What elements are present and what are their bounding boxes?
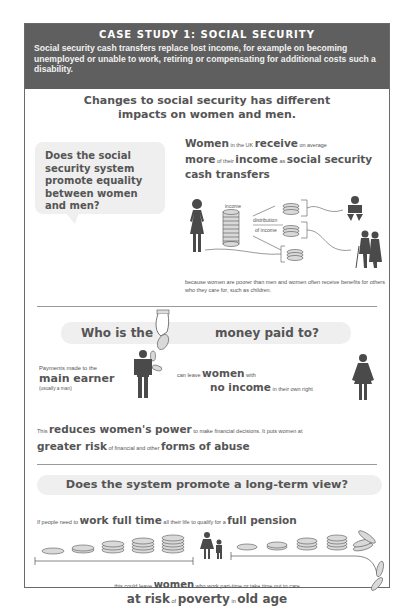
income-distribution-diagram: income distribution of income <box>185 194 385 278</box>
heading-part2: money paid to? <box>215 324 319 342</box>
coin-stacks-full-career <box>42 535 184 554</box>
case-study-description: Social security cash transfers replace l… <box>34 43 380 75</box>
reduces-power-text: This reduces women's power to make finan… <box>37 422 377 456</box>
svg-text:of income: of income <box>255 227 277 233</box>
section1-heading-line2: impacts on women and men. <box>25 108 389 122</box>
work-full-time-text: If people need to work full time all the… <box>37 514 382 526</box>
case-study-title: CASE STUDY 1: SOCIAL SECURITY <box>34 29 380 40</box>
text: to make financial decisions. It puts wom… <box>192 428 303 434</box>
text: this could leave <box>114 583 153 589</box>
woman-icon <box>190 199 204 252</box>
income-claim: Women in the UK receive on average more … <box>185 137 385 182</box>
section-divider <box>37 464 377 465</box>
work-full-time: work full time <box>80 514 162 526</box>
case-study-header: CASE STUDY 1: SOCIAL SECURITY Social sec… <box>25 24 389 89</box>
women-word: women <box>154 579 194 590</box>
women-word: women <box>202 367 244 379</box>
main-earner: main earner <box>39 372 114 385</box>
elderly-couple-icon <box>356 231 382 269</box>
text: who work part-time or take time out to c… <box>194 583 300 589</box>
full-pension: full pension <box>227 514 297 526</box>
claim-text: on average <box>298 142 327 148</box>
heading-part1: Who is the <box>81 324 153 342</box>
figure-caption-clipped <box>0 600 408 606</box>
coin-stacks <box>283 204 303 261</box>
case-study-panel: CASE STUDY 1: SOCIAL SECURITY Social sec… <box>24 23 390 588</box>
section1-heading: Changes to social security has different… <box>25 94 389 122</box>
claim-text: as <box>278 158 287 164</box>
claim-receive: receive <box>255 137 298 149</box>
leave-women-text: can leave women with <box>177 367 256 379</box>
own-right-text: in their own right <box>271 386 313 392</box>
claim-text: in the UK <box>229 142 255 148</box>
text: This <box>37 428 49 434</box>
svg-text:distribution: distribution <box>253 217 277 223</box>
leave-text: can leave <box>177 372 202 378</box>
section1-heading-line1: Changes to social security has different <box>25 94 389 108</box>
forms-of-abuse: forms of abuse <box>161 440 250 452</box>
claim-women: Women <box>185 137 229 149</box>
text: of financial and other <box>107 445 161 451</box>
section-divider <box>37 306 377 307</box>
income-caption: because women are poorer than men and wo… <box>185 278 385 294</box>
question-bubble: Does the social security system promote … <box>35 142 165 214</box>
woman-icon <box>351 354 375 400</box>
text: If people need to <box>37 519 80 525</box>
reduces-power: reduces women's power <box>49 423 192 435</box>
main-earner-note: (usually a man) <box>39 386 72 391</box>
part-time-text: this could leave women who work part-tim… <box>25 579 389 590</box>
greater-risk: greater risk <box>37 440 107 452</box>
baby-icon <box>347 196 363 221</box>
mother-and-child-icon <box>200 532 222 559</box>
no-income-text: no income in their own right <box>210 381 313 393</box>
man-icon <box>133 350 153 398</box>
with-text: with <box>245 372 256 378</box>
claim-income: income <box>235 153 278 165</box>
coin-stack-icon <box>223 210 239 247</box>
claim-more: more <box>185 153 215 165</box>
no-income-word: no income <box>210 381 271 393</box>
income-label: income <box>225 203 241 209</box>
text: all their life to qualify for a <box>162 519 227 525</box>
speech-bubble-tail <box>65 212 79 224</box>
claim-text: of their <box>215 158 235 164</box>
question-text: Does the social security system promote … <box>45 150 142 211</box>
section3-heading: Does the system promote a long-term view… <box>37 476 377 494</box>
